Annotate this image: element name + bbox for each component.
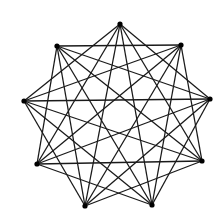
vertex-7 — [21, 98, 26, 103]
edge-3-6 — [37, 161, 202, 164]
edge-2-7 — [24, 99, 210, 101]
vertex-5 — [82, 203, 87, 208]
vertex-2 — [207, 96, 212, 101]
vertex-0 — [117, 21, 122, 26]
edge-4-6 — [37, 164, 152, 205]
edge-2-4 — [152, 99, 210, 205]
edge-3-5 — [85, 161, 202, 206]
vertex-6 — [34, 161, 39, 166]
vertex-3 — [199, 158, 204, 163]
vertex-layer — [21, 21, 212, 208]
edge-0-5 — [85, 24, 120, 206]
vertex-4 — [149, 202, 154, 207]
vertex-8 — [54, 43, 59, 48]
edge-layer — [24, 24, 210, 206]
graph-diagram — [0, 0, 221, 223]
vertex-1 — [178, 42, 183, 47]
edge-1-8 — [57, 45, 181, 46]
